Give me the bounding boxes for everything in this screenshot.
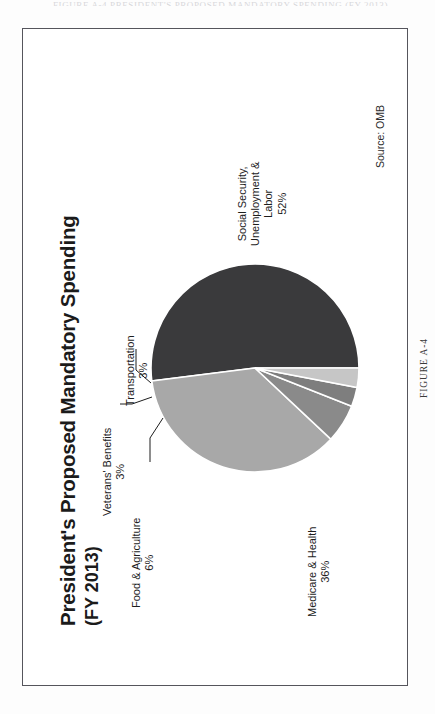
pie-label-social-security-line3: Labor	[262, 190, 274, 218]
figure-caption: FIGURE A-4	[419, 338, 429, 398]
chart-subtitle: (FY 2013)	[82, 546, 103, 626]
source-note: Source: OMB	[374, 105, 386, 168]
pie-label-transportation-line1: Transportation	[124, 335, 136, 406]
chart-title: President's Proposed Mandatory Spending	[56, 215, 80, 626]
pie-value-veterans-benefits: 3%	[114, 428, 127, 516]
pie-label-social-security-line2: Unemployment &	[249, 162, 261, 246]
pie-value-food-agriculture: 6%	[143, 518, 156, 609]
pie-label-food-agriculture-line1: Food & Agriculture	[130, 518, 142, 609]
pie-label-medicare-health: Medicare & Health 36%	[306, 527, 332, 618]
page-running-head: FIGURE A-4 PRESIDENT'S PROPOSED MANDATOR…	[48, 0, 393, 6]
pie-label-social-security-line1: Social Security,	[236, 166, 248, 241]
pie-value-medicare-health: 36%	[319, 527, 332, 618]
scanned-page: FIGURE A-4 PRESIDENT'S PROPOSED MANDATOR…	[0, 0, 435, 714]
pie-label-social-security: Social Security, Unemployment & Labor 52…	[236, 162, 289, 246]
pie-label-veterans-benefits: Veterans' Benefits 3%	[101, 428, 127, 516]
pie-label-transportation: Transportation 3%	[124, 335, 150, 406]
pie-label-medicare-health-line1: Medicare & Health	[306, 527, 318, 618]
pie-value-transportation: 3%	[137, 335, 150, 406]
pie-label-veterans-benefits-line1: Veterans' Benefits	[101, 428, 113, 516]
pie-value-social-security: 52%	[276, 162, 289, 246]
pie-label-food-agriculture: Food & Agriculture 6%	[130, 518, 156, 609]
